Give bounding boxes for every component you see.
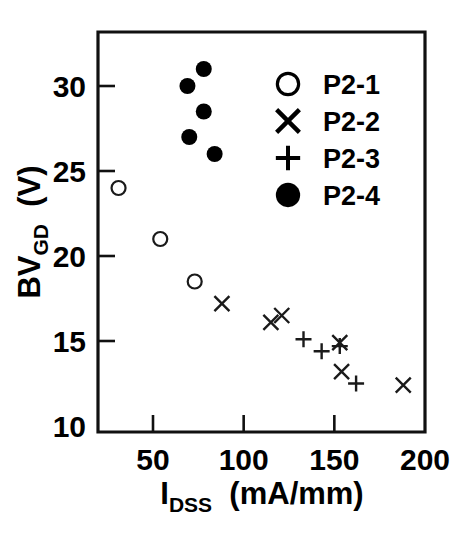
- legend-label-P2-2: P2-2: [323, 107, 380, 137]
- filled-circle-icon: [276, 183, 300, 207]
- y-axis-label-units: (V): [12, 165, 47, 224]
- x-axis-label-units: (mA/mm): [212, 476, 364, 511]
- filled-circle-icon: [181, 129, 197, 145]
- x-axis-label-subscript: DSS: [169, 493, 212, 516]
- x-axis-label-main: I: [160, 476, 169, 511]
- marker-filled-circle: [276, 183, 300, 207]
- marker-filled-circle: [196, 61, 212, 77]
- y-tick-label-30: 30: [53, 70, 86, 103]
- y-tick-label-25: 25: [53, 155, 86, 188]
- scatter-chart-figure: 3025201510 50100150200 P2-1P2-2P2-3P2-4 …: [0, 0, 458, 536]
- marker-filled-circle: [207, 146, 223, 162]
- filled-circle-icon: [196, 61, 212, 77]
- filled-circle-icon: [196, 104, 212, 120]
- filled-circle-icon: [207, 146, 223, 162]
- legend-label-P2-1: P2-1: [323, 70, 380, 100]
- x-tick-label-100: 100: [219, 443, 269, 476]
- y-axis-label-main: BV: [12, 255, 47, 298]
- y-axis-label-subscript: GD: [29, 224, 52, 256]
- legend-label-P2-4: P2-4: [323, 181, 380, 211]
- x-tick-label-200: 200: [400, 443, 450, 476]
- marker-filled-circle: [196, 104, 212, 120]
- chart-canvas: 3025201510 50100150200 P2-1P2-2P2-3P2-4 …: [0, 0, 458, 536]
- marker-filled-circle: [179, 78, 195, 94]
- x-tick-label-50: 50: [136, 443, 169, 476]
- x-tick-label-150: 150: [309, 443, 359, 476]
- legend-label-P2-3: P2-3: [323, 144, 380, 174]
- y-tick-label-15: 15: [53, 325, 86, 358]
- marker-filled-circle: [181, 129, 197, 145]
- y-tick-label-10: 10: [53, 410, 86, 443]
- filled-circle-icon: [179, 78, 195, 94]
- legend-entry-P2-4: P2-4: [276, 181, 380, 211]
- y-tick-label-20: 20: [53, 240, 86, 273]
